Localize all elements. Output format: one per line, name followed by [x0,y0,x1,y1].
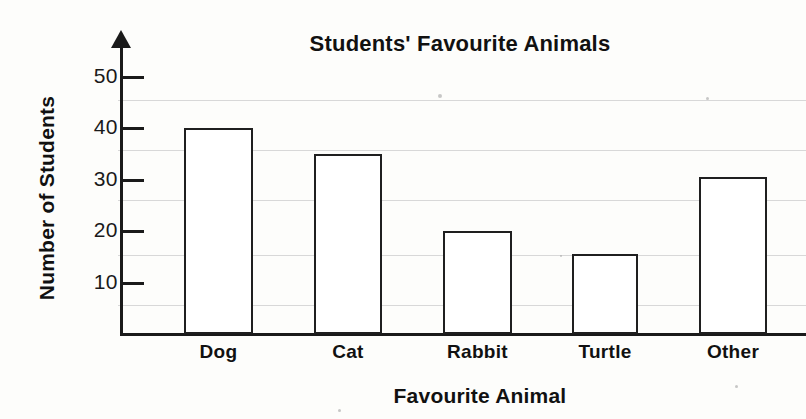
scan-speck [338,409,341,412]
y-axis-tick [123,179,144,182]
y-axis-tick-label: 30 [72,167,118,191]
bar-other [699,177,767,334]
y-axis-tick-label: 50 [72,64,118,88]
y-axis-title: Number of Students [35,73,59,323]
bar-label-other: Other [669,341,797,363]
bar-turtle [572,254,638,334]
y-axis-line [120,44,123,336]
bar-rabbit [443,231,512,334]
y-axis-tick [123,282,144,285]
bar-label-dog: Dog [154,341,283,363]
y-axis-tick-label: 40 [72,115,118,139]
scan-speck [560,255,562,257]
chart-title: Students' Favourite Animals [245,31,675,57]
bar-chart-screenshot: 5040302010 DogCatRabbitTurtleOther Stude… [0,0,806,419]
y-axis-tick [123,76,144,79]
bar-label-cat: Cat [284,341,412,363]
y-axis-tick-label: 20 [72,218,118,242]
scan-speck [438,94,442,98]
bar-label-turtle: Turtle [542,341,668,363]
x-axis-title: Favourite Animal [300,384,660,408]
scan-speck [706,97,709,100]
bar-dog [184,128,253,334]
scan-speck [735,385,738,388]
y-axis-tick [123,127,144,130]
bar-cat [314,154,382,334]
bar-label-rabbit: Rabbit [413,341,542,363]
y-axis-tick [123,230,144,233]
paper-rule-line [118,100,806,101]
y-axis-tick-label: 10 [72,270,118,294]
